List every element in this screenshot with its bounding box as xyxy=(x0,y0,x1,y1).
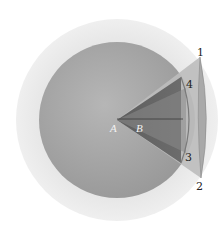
sphere-cone-diagram: A B 1 4 3 2 xyxy=(0,0,220,232)
label-point-3: 3 xyxy=(185,151,192,164)
label-point-1: 1 xyxy=(197,46,204,59)
label-b: B xyxy=(136,122,143,134)
label-point-4: 4 xyxy=(186,78,193,91)
label-center-a: A xyxy=(109,122,117,134)
label-point-2: 2 xyxy=(196,180,203,193)
